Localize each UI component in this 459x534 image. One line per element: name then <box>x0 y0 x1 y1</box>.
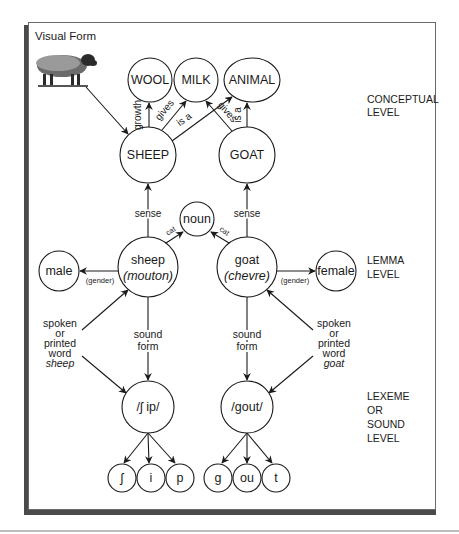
edge-input-goat-lexeme <box>269 356 313 393</box>
edge-input-sheep-lemma <box>82 290 128 330</box>
edge-label-sense-right: sense <box>234 208 261 219</box>
diagram-stage: Visual Form <box>0 0 459 534</box>
label-phoneme-i: i <box>150 471 153 485</box>
node-sheep-lemma <box>118 237 178 297</box>
label-sheep-french: (mouton) <box>123 269 173 283</box>
edge-label-is-a-goat: is a <box>232 107 243 123</box>
edge-label-cat-left: cat <box>164 224 178 238</box>
sound-form-left: sound form <box>134 328 163 352</box>
label-sheep-lemma: sheep <box>131 253 165 267</box>
label-goat-french: (chevre) <box>224 269 270 283</box>
edge-label-gender-right: (gender) <box>281 276 310 285</box>
svg-text:form: form <box>138 340 159 352</box>
level-label-lexeme: LEXEME OR SOUND LEVEL <box>367 390 410 444</box>
edge-label-cat-right: cat <box>218 224 232 238</box>
level-label-lemma: LEMMA LEVEL <box>367 254 404 280</box>
input-label-left: spoken or printed word sheep <box>43 317 77 369</box>
svg-text:LEVEL: LEVEL <box>367 268 400 280</box>
label-phoneme-p: p <box>177 471 184 485</box>
input-label-right: spoken or printed word goat <box>317 317 351 369</box>
svg-text:form: form <box>237 340 258 352</box>
edge-visual-to-sheep <box>86 87 128 134</box>
edge-label-gender-left: (gender) <box>86 276 115 285</box>
label-sheep-lexeme: /ʃ ip/ <box>137 400 160 414</box>
label-phoneme-ou: ou <box>240 471 254 485</box>
svg-text:SOUND: SOUND <box>367 418 405 430</box>
label-phoneme-g: g <box>215 471 222 485</box>
svg-text:sheep: sheep <box>46 357 75 369</box>
label-animal: ANIMAL <box>229 73 276 87</box>
label-goat-lexeme: /gout/ <box>231 400 263 414</box>
label-female: female <box>317 264 355 278</box>
edge-input-goat-lemma <box>267 290 313 330</box>
label-wool: WOOL <box>131 73 169 87</box>
svg-text:CONCEPTUAL: CONCEPTUAL <box>367 93 439 105</box>
edge-label-growth: growth <box>132 100 143 130</box>
node-goat-lemma <box>217 237 277 297</box>
label-goat-lemma: goat <box>235 253 260 267</box>
edge-label-sense-left: sense <box>135 208 162 219</box>
visual-form-title: Visual Form <box>35 30 96 42</box>
label-noun: noun <box>183 212 211 226</box>
svg-text:LEMMA: LEMMA <box>367 254 404 266</box>
sound-form-right: sound form <box>233 328 262 352</box>
label-male: male <box>45 264 72 278</box>
label-milk: MILK <box>181 73 211 87</box>
svg-text:LEVEL: LEVEL <box>367 106 400 118</box>
edge-input-sheep-lexeme <box>82 356 126 393</box>
svg-text:OR: OR <box>367 404 383 416</box>
lexical-network-diagram: Visual Form <box>0 0 459 534</box>
label-sheep-concept: SHEEP <box>127 148 169 162</box>
svg-text:sound: sound <box>134 328 163 340</box>
label-goat-concept: GOAT <box>230 148 265 162</box>
svg-text:sound: sound <box>233 328 262 340</box>
level-label-conceptual: CONCEPTUAL LEVEL <box>367 93 439 118</box>
svg-text:LEXEME: LEXEME <box>367 390 410 402</box>
svg-text:LEVEL: LEVEL <box>367 432 400 444</box>
edge-label-is-a-sheep: is a <box>174 110 193 128</box>
edges <box>80 87 315 463</box>
sheep-photo-icon <box>36 54 97 87</box>
svg-text:goat: goat <box>324 357 346 369</box>
label-phoneme-t: t <box>274 471 278 485</box>
